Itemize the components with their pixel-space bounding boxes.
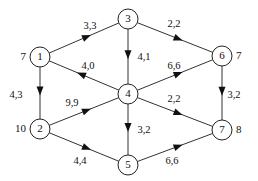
edge-label: 4,1 bbox=[137, 51, 150, 62]
arrowhead-icon bbox=[125, 50, 132, 59]
node-3: 3 bbox=[118, 9, 138, 29]
edge-4-1: 4,0 bbox=[49, 60, 119, 90]
node-id-label: 2 bbox=[37, 122, 43, 134]
arrowhead-icon bbox=[77, 73, 87, 80]
edge-label: 9,9 bbox=[65, 97, 78, 108]
edge-2-4: 9,9 bbox=[49, 97, 118, 125]
node-id-label: 5 bbox=[125, 158, 131, 170]
node-5: 5 bbox=[118, 155, 138, 175]
node-4: 4 bbox=[118, 84, 138, 104]
node-6: 67 bbox=[212, 46, 242, 66]
edge-label: 6,6 bbox=[167, 60, 180, 71]
arrowhead-icon bbox=[173, 34, 183, 41]
edge-label: 2,2 bbox=[167, 93, 180, 104]
arrowhead-icon bbox=[81, 143, 91, 150]
edge-3-6: 2,2 bbox=[137, 18, 212, 52]
arrowhead-icon bbox=[173, 72, 183, 79]
edge-label: 3,2 bbox=[227, 89, 240, 100]
node-id-label: 6 bbox=[219, 49, 225, 61]
node-1: 17 bbox=[21, 47, 51, 67]
edge-4-7: 2,2 bbox=[137, 93, 212, 126]
edge-6-7: 3,2 bbox=[219, 66, 241, 120]
edge-2-5: 4,4 bbox=[49, 133, 118, 167]
edge-4-6: 6,6 bbox=[137, 60, 212, 91]
edge-label: 6,6 bbox=[165, 155, 178, 166]
arrowhead-icon bbox=[37, 87, 44, 96]
edge-label: 3,3 bbox=[83, 20, 96, 31]
node-id-label: 4 bbox=[125, 87, 131, 99]
node-id-label: 7 bbox=[219, 123, 225, 135]
arrowhead-icon bbox=[219, 87, 226, 96]
edge-label: 4,4 bbox=[73, 155, 87, 166]
edge-5-7: 6,6 bbox=[137, 133, 212, 166]
node-2: 210 bbox=[15, 119, 50, 139]
network-flow-diagram: 3,32,24,14,06,64,39,92,23,23,24,46,6 172… bbox=[0, 0, 258, 181]
arrowhead-icon bbox=[81, 35, 91, 42]
edge-4-5: 3,2 bbox=[125, 104, 151, 155]
edge-1-2: 4,3 bbox=[9, 67, 43, 119]
arrowhead-icon bbox=[81, 109, 91, 116]
node-value-label: 7 bbox=[21, 50, 27, 62]
node-value-label: 8 bbox=[236, 123, 242, 135]
edge-label: 4,0 bbox=[81, 60, 94, 71]
node-id-label: 3 bbox=[125, 12, 131, 24]
node-value-label: 7 bbox=[236, 49, 242, 61]
node-7: 78 bbox=[212, 120, 242, 140]
edge-1-3: 3,3 bbox=[49, 20, 119, 53]
edge-label: 2,2 bbox=[167, 18, 180, 29]
edge-label: 3,2 bbox=[137, 124, 150, 135]
arrowhead-icon bbox=[173, 145, 183, 152]
graph-svg: 3,32,24,14,06,64,39,92,23,23,24,46,6 172… bbox=[0, 0, 258, 181]
edge-label: 4,3 bbox=[9, 89, 22, 100]
node-id-label: 1 bbox=[37, 50, 43, 62]
node-value-label: 10 bbox=[15, 122, 27, 134]
edge-3-4: 4,1 bbox=[125, 29, 151, 84]
arrowhead-icon bbox=[125, 123, 132, 132]
arrowhead-icon bbox=[173, 108, 183, 115]
